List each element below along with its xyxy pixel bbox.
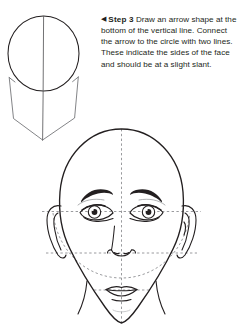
face-svg [34,118,209,333]
page-root: ◀ Step 3 Draw an arrow shape at the bott… [0,0,244,333]
lower-lip-shadow [112,300,131,302]
chin [113,310,130,312]
right-ear-detail [184,222,186,235]
neck-left [78,281,87,314]
neck-right [156,281,165,314]
nose-left-nostril-wing [108,250,112,253]
left-eye-highlight [92,209,94,211]
nose-bridge-left [112,226,115,250]
instruction-text-block: ◀ Step 3 Draw an arrow shape at the bott… [101,13,240,70]
arrow-right-join-tick [73,77,79,82]
left-ear-inner [54,213,61,250]
step-label: Step 3 [108,15,133,24]
finished-face-diagram [34,118,209,333]
right-eye-highlight [146,209,148,211]
arrow-left-join-tick [9,78,15,83]
left-triangle-icon: ◀ [101,14,106,23]
nose-right-nostril-wing [132,250,136,253]
